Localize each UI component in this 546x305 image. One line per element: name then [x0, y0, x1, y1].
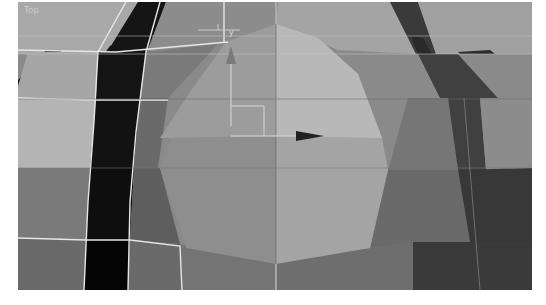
mesh-face	[84, 240, 130, 290]
mesh-face	[458, 168, 532, 242]
mesh-face	[18, 238, 86, 290]
mesh-face	[18, 98, 96, 168]
mesh-face	[480, 98, 532, 170]
mesh-canvas[interactable]	[18, 2, 532, 290]
mesh-face	[18, 168, 90, 240]
mesh-face	[96, 52, 146, 98]
viewport-label[interactable]: Top	[24, 5, 39, 15]
mesh-face	[86, 168, 134, 240]
mesh-face	[18, 52, 98, 98]
mesh-face	[90, 98, 140, 168]
mesh-face	[413, 242, 532, 290]
gizmo-y-label: y	[229, 28, 234, 37]
top-viewport[interactable]: Top y	[18, 2, 532, 290]
mesh-face	[128, 240, 182, 290]
mesh-face	[418, 2, 532, 54]
